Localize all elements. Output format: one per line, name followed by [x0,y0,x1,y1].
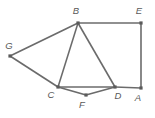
vertex-label-g: G [5,40,12,51]
graph-figure: ABCDEFG [0,0,155,118]
graph-edge-b-d [78,23,115,87]
graph-edge-c-f [58,87,86,95]
edges-layer [10,23,141,95]
graph-vertex-a [139,86,142,89]
graph-vertex-d [113,85,116,88]
graph-edge-d-a [115,87,141,88]
vertex-label-d: D [115,90,122,101]
graph-vertex-e [139,21,142,24]
graph-edge-g-c [10,56,58,87]
graph-canvas: ABCDEFG [0,0,155,118]
vertex-label-c: C [48,89,55,100]
graph-edge-b-c [58,23,78,87]
graph-edge-b-g [10,23,78,56]
vertex-label-f: F [79,99,86,110]
graph-vertex-b [76,21,79,24]
graph-vertex-f [84,93,87,96]
vertex-label-b: B [73,5,80,16]
vertex-label-a: A [134,92,141,103]
vertex-label-e: E [136,5,143,16]
graph-vertex-g [8,54,11,57]
graph-vertex-c [56,85,59,88]
labels-layer: ABCDEFG [5,5,143,110]
graph-edge-f-d [86,87,115,95]
